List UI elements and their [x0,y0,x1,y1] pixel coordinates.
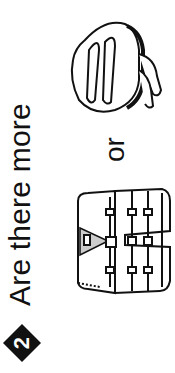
or-text: or [100,137,130,162]
question-text: Are there more [4,103,36,306]
svg-text:2: 2 [9,337,34,349]
life-vest-icon [70,183,175,298]
problem-number-badge: 2 [2,323,42,363]
bike-helmet-icon [65,10,170,120]
diamond-icon: 2 [2,323,42,363]
